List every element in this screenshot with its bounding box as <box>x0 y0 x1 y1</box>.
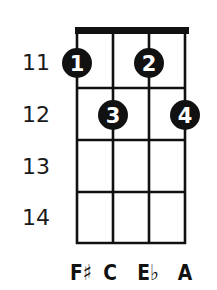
note-label-string-3: E♭ <box>133 262 164 284</box>
finger-dot-4: 4 <box>170 100 200 130</box>
note-label-string-4: A <box>170 262 201 284</box>
note-label-string-1: F♯ <box>66 262 97 284</box>
fret-number-13: 13 <box>22 156 62 178</box>
fret-number-11: 11 <box>22 52 62 74</box>
fret-number-12: 12 <box>22 104 62 126</box>
finger-dot-3: 3 <box>98 100 128 130</box>
svg-text:4: 4 <box>178 104 193 128</box>
svg-text:2: 2 <box>142 52 157 76</box>
fretboard-grid: 1 2 3 4 <box>0 0 217 290</box>
note-label-string-2: C <box>95 262 126 284</box>
svg-text:1: 1 <box>70 52 85 76</box>
chord-diagram: 1 2 3 4 11 12 13 14 F♯ C E♭ A <box>0 0 217 290</box>
svg-text:3: 3 <box>106 104 121 128</box>
fret-number-14: 14 <box>22 207 62 229</box>
nut <box>75 27 189 34</box>
finger-dot-1: 1 <box>62 48 92 78</box>
finger-dot-2: 2 <box>134 48 164 78</box>
